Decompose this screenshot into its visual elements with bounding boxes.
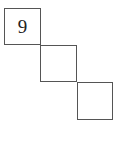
cell-2: [40, 45, 77, 82]
cell-3: [77, 82, 113, 120]
cell-1: 9: [4, 8, 41, 45]
cell-1-value: 9: [18, 16, 28, 38]
